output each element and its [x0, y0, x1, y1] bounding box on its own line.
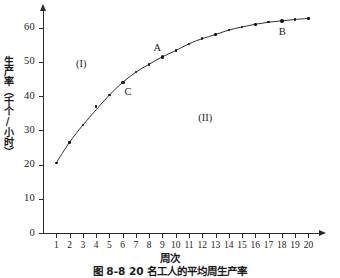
- data-point: [161, 55, 165, 59]
- data-point: [121, 81, 125, 85]
- data-point: [175, 49, 177, 51]
- data-point: [55, 162, 57, 164]
- figure-caption: 图 8-8 20 名工人的平均周生产率: [0, 263, 340, 278]
- data-point: [254, 23, 256, 25]
- data-point: [95, 105, 97, 107]
- data-point: [68, 141, 70, 143]
- point-label-c: C: [125, 86, 132, 97]
- data-point: [280, 19, 284, 23]
- data-point: [108, 94, 110, 96]
- data-point: [307, 17, 309, 19]
- point-label-a: A: [153, 42, 161, 53]
- region-label-ii: (II): [198, 112, 212, 123]
- data-point: [214, 33, 216, 35]
- data-point: [294, 18, 296, 20]
- point-label-b: B: [279, 26, 286, 37]
- region-label-i: (I): [76, 58, 87, 69]
